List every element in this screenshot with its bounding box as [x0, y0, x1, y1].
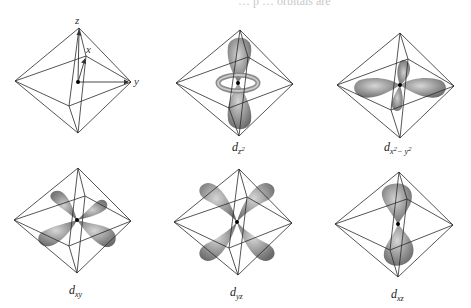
nucleus-dot	[398, 83, 402, 87]
orbital-dx2-y2-panel	[337, 33, 454, 138]
nucleus-dot	[236, 81, 240, 85]
z-axis-arrow	[78, 31, 79, 82]
octahedron-edges	[174, 169, 292, 275]
orbital-dxy-panel	[14, 168, 131, 273]
z-axis-label: z	[75, 15, 79, 26]
y-axis-label: y	[134, 76, 139, 87]
nucleus-dot	[235, 220, 239, 224]
orbital-dyz-panel	[174, 169, 292, 275]
x-axis-label: x	[86, 44, 91, 55]
orbital-label-dxy: dxy	[69, 284, 82, 299]
nucleus-dot	[396, 222, 400, 226]
nucleus-dot	[75, 218, 79, 222]
orbital-label-dyz: dyz	[230, 286, 243, 301]
octahedron-edges	[15, 28, 131, 133]
orbital-label-dx2-y2: dx2− y2	[384, 141, 412, 156]
orbital-label-dxz: dxz	[391, 288, 404, 303]
orbital-label-dz2: dz2	[232, 141, 245, 156]
octahedron-axes-panel	[15, 28, 131, 133]
nucleus-dot	[76, 80, 80, 84]
orbital-dxz-panel	[335, 172, 453, 277]
octahedron-edges	[14, 168, 131, 273]
orbital-dz2-panel	[176, 30, 293, 136]
